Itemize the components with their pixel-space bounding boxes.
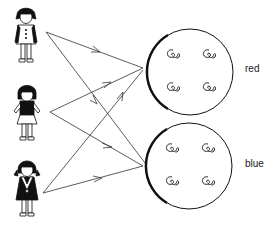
group-label-blue: blue (245, 158, 264, 169)
arrow-head-icon (90, 95, 97, 104)
girl-figure-1 (15, 8, 37, 62)
arrow-head-icon (117, 92, 123, 101)
group-blue-circle (146, 123, 232, 209)
arrow-girl1-red (46, 32, 143, 68)
group-red-circle (147, 29, 233, 115)
arrow-girl3-blue (43, 166, 143, 193)
arrow-girl3-red (43, 70, 143, 193)
girl-figure-3 (14, 161, 40, 216)
arrow-girl2-red (50, 68, 143, 112)
group-label-red: red (245, 63, 259, 74)
diagram-canvas (0, 0, 277, 228)
girl-figure-2 (14, 86, 40, 141)
arrow-girl2-blue (50, 112, 143, 166)
arrows (43, 32, 145, 193)
